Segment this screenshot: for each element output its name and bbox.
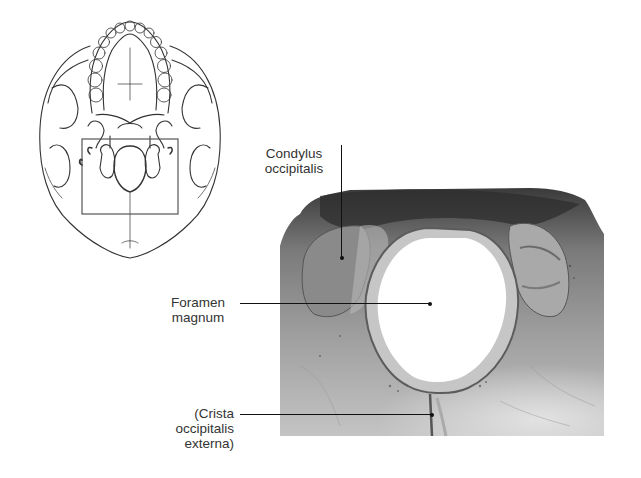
leader-dot-foramen xyxy=(428,302,432,306)
label-condylus-line1: Condylus xyxy=(254,146,334,161)
label-condylus-occipitalis: Condylus occipitalis xyxy=(254,146,334,176)
label-crista-occipitalis-externa: (Crista occipitalis externa) xyxy=(150,406,234,451)
label-crista-line2: occipitalis xyxy=(150,421,234,436)
label-condylus-line2: occipitalis xyxy=(254,161,334,176)
foramen-magnum-photo xyxy=(280,186,606,438)
leader-line-foramen xyxy=(240,303,430,304)
leader-dot-crista xyxy=(430,413,434,417)
leader-dot-condylus xyxy=(340,256,344,260)
leader-line-crista xyxy=(240,414,432,415)
label-crista-line1: (Crista xyxy=(150,406,234,421)
label-crista-line3: externa) xyxy=(150,436,234,451)
skull-inferior-view-drawing xyxy=(30,18,230,263)
label-foramen-line2: magnum xyxy=(158,310,238,325)
label-foramen-magnum: Foramen magnum xyxy=(158,295,238,325)
leader-line-condylus xyxy=(341,145,342,257)
label-foramen-line1: Foramen xyxy=(158,295,238,310)
